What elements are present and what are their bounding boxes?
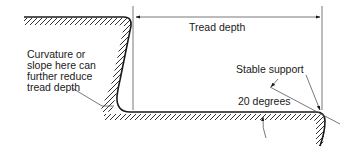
tread-depth-label: Tread depth <box>189 22 245 33</box>
stable-support-leader-to-corner <box>306 75 320 110</box>
curvature-note: Curvature or slope here can further redu… <box>27 49 96 93</box>
stable-support-leader-to-slope <box>271 79 278 87</box>
curvature-note-line-4: tread depth <box>27 82 96 93</box>
angle-label: 20 degrees <box>238 96 291 107</box>
angle-indicator-arrow <box>263 117 266 138</box>
stable-support-label: Stable support <box>236 64 304 75</box>
lower-step-hatching <box>104 114 325 146</box>
